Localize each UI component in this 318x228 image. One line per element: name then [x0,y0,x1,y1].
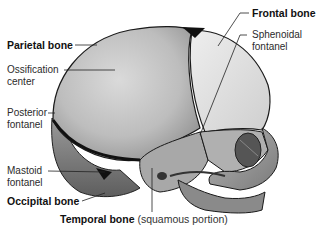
label-mastoid-fontanel: Mastoid fontanel [7,165,43,189]
label-ossification-line2: center [7,76,59,88]
label-posterior-line1: Posterior [7,107,47,119]
label-mastoid-line2: fontanel [7,177,43,189]
label-mastoid-line1: Mastoid [7,165,43,177]
label-temporal-bone-suffix: (squamous portion) [137,213,227,225]
label-ossification-line1: Ossification [7,64,59,76]
label-posterior-line2: fontanel [7,119,47,131]
label-sphenoidal-line2: fontanel [252,41,302,53]
label-frontal-bone: Frontal bone [252,7,316,19]
label-ossification-center: Ossification center [7,64,59,88]
label-occipital-bone: Occipital bone [7,195,79,207]
label-temporal-bone: Temporal bone (squamous portion) [60,213,228,225]
external-acoustic-meatus [157,172,167,180]
label-sphenoidal-fontanel: Sphenoidal fontanel [252,29,302,53]
label-parietal-bone: Parietal bone [7,39,73,51]
label-posterior-fontanel: Posterior fontanel [7,107,47,131]
orbit [235,133,261,167]
label-temporal-bone-main: Temporal bone [60,213,134,225]
label-sphenoidal-line1: Sphenoidal [252,29,302,41]
